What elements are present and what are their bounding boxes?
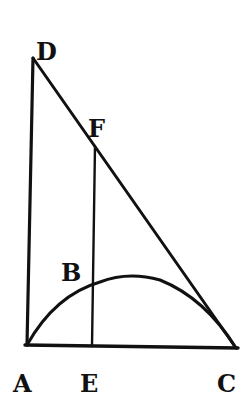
label-A: A: [12, 369, 32, 398]
label-C: C: [217, 369, 236, 398]
arc-ABC: [27, 276, 236, 348]
segment-DA: [27, 58, 33, 345]
label-F: F: [88, 114, 105, 143]
segment-DC: [33, 58, 236, 348]
segment-AC: [25, 345, 238, 348]
geometric-diagram: D F B A E C: [0, 0, 252, 416]
label-B: B: [61, 258, 81, 287]
segment-FE: [92, 146, 95, 346]
label-E: E: [80, 369, 98, 398]
label-D: D: [36, 37, 57, 66]
